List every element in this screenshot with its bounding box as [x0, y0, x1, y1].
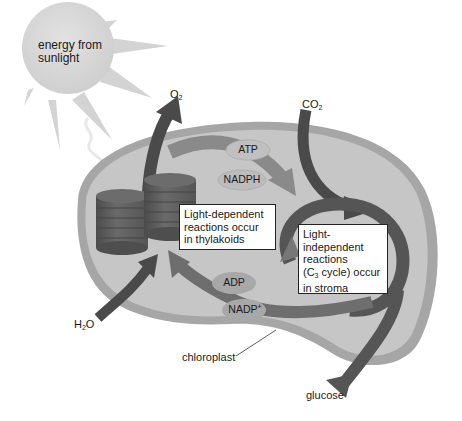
co2-sub: 2	[319, 104, 323, 111]
light-dependent-line3: in thylakoids	[184, 233, 271, 246]
sun-label-line2: sunlight	[38, 52, 102, 65]
o2-base: O	[170, 88, 179, 100]
sun-icon	[22, 2, 168, 150]
light-independent-line5: in stroma	[303, 282, 383, 295]
c3-post: cycle) occur	[319, 266, 381, 278]
light-dependent-line1: Light-dependent	[184, 208, 271, 221]
h2o-base: H	[74, 318, 82, 330]
co2-base: CO	[302, 98, 319, 110]
c3-pre: (C	[303, 266, 315, 278]
h2o-label: H2O	[74, 318, 94, 334]
nadp-base: NADP	[228, 303, 257, 315]
atp-label: ATP	[232, 143, 264, 155]
nadp-sup: +	[258, 303, 262, 310]
glucose-label: glucose	[306, 389, 344, 401]
light-independent-line1: Light-	[303, 228, 383, 241]
light-dependent-line2: reactions occur	[184, 221, 271, 234]
light-dependent-box: Light-dependent reactions occur in thyla…	[179, 204, 276, 250]
o2-label: O2	[170, 88, 182, 104]
nadph-label: NADPH	[220, 173, 264, 185]
thylakoid-stack-left	[96, 189, 148, 255]
chloroplast-label: chloroplast	[182, 351, 235, 363]
o2-sub: 2	[179, 94, 183, 101]
photosynthesis-diagram: energy from sunlight O2 CO2 H2O glucose …	[0, 0, 462, 421]
h2o-tail: O	[86, 318, 95, 330]
light-independent-line2: independent	[303, 241, 383, 254]
co2-label: CO2	[302, 98, 322, 114]
sun-label: energy from sunlight	[38, 39, 102, 65]
chloroplast-leader-line	[236, 330, 276, 356]
light-independent-line4: (C3 cycle) occur	[303, 266, 383, 283]
nadp-label: NADP+	[224, 303, 266, 315]
light-independent-line3: reactions	[303, 253, 383, 266]
adp-label: ADP	[218, 276, 250, 288]
light-independent-box: Light- independent reactions (C3 cycle) …	[298, 224, 388, 294]
